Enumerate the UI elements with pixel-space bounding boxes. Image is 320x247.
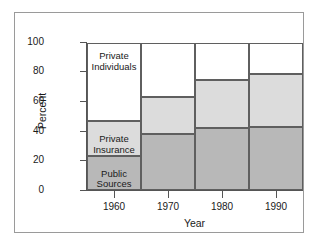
bar-1980[interactable] bbox=[195, 43, 249, 190]
y-axis-label-0: 0 bbox=[4, 185, 44, 195]
segment-private-individuals-1970[interactable] bbox=[141, 43, 195, 97]
segment-private-individuals-1960[interactable] bbox=[87, 43, 141, 121]
plot-area: Public Sources Private Insurance Private… bbox=[87, 43, 302, 190]
segment-private-insurance-1970[interactable] bbox=[141, 97, 195, 134]
x-axis-label-1980: 1980 bbox=[197, 201, 247, 212]
segment-private-individuals-1990[interactable] bbox=[249, 43, 303, 74]
x-axis-line bbox=[86, 190, 303, 191]
y-axis-title: Percent bbox=[36, 76, 48, 146]
x-axis-tick-1970 bbox=[168, 191, 169, 198]
x-axis-title: Year bbox=[87, 217, 302, 229]
figure-frame: 100 80 60 40 20 0 Percent 1960 1970 1980… bbox=[14, 12, 304, 233]
x-axis-label-1970: 1970 bbox=[143, 201, 193, 212]
bar-1990[interactable] bbox=[249, 43, 303, 190]
segment-public-sources-1970[interactable] bbox=[141, 134, 195, 190]
y-axis-tick-60 bbox=[80, 101, 86, 102]
y-axis-tick-20 bbox=[80, 160, 86, 161]
y-axis-label-80: 80 bbox=[4, 66, 44, 76]
x-axis-label-1960: 1960 bbox=[89, 201, 139, 212]
segment-public-sources-1960[interactable] bbox=[87, 156, 141, 190]
segment-private-insurance-1960[interactable] bbox=[87, 121, 141, 156]
bar-1960[interactable]: Public Sources Private Insurance Private… bbox=[87, 43, 141, 190]
segment-public-sources-1980[interactable] bbox=[195, 128, 249, 190]
x-axis-label-1990: 1990 bbox=[251, 201, 301, 212]
x-axis-tick-1990 bbox=[276, 191, 277, 198]
y-axis-tick-40 bbox=[80, 131, 86, 132]
y-axis-label-100: 100 bbox=[4, 37, 44, 47]
chart-figure: 100 80 60 40 20 0 Percent 1960 1970 1980… bbox=[0, 0, 320, 247]
y-axis-tick-100 bbox=[80, 42, 86, 43]
segment-private-insurance-1980[interactable] bbox=[195, 80, 249, 129]
segment-public-sources-1990[interactable] bbox=[249, 127, 303, 190]
bar-1970[interactable] bbox=[141, 43, 195, 190]
y-axis-label-20: 20 bbox=[4, 155, 44, 165]
segment-private-individuals-1980[interactable] bbox=[195, 43, 249, 80]
y-axis-tick-80 bbox=[80, 71, 86, 72]
x-axis-tick-1960 bbox=[114, 191, 115, 198]
y-axis-tick-0 bbox=[80, 190, 86, 191]
x-axis-tick-1980 bbox=[222, 191, 223, 198]
segment-private-insurance-1990[interactable] bbox=[249, 74, 303, 127]
